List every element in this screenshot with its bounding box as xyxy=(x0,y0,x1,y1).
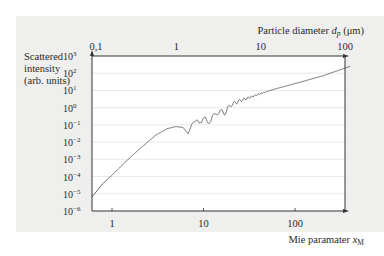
plot-area xyxy=(92,56,345,211)
x-tick-label: 1 xyxy=(109,218,114,229)
top-x-axis-label: Particle diameter dp (μm) xyxy=(258,25,365,38)
x-tick-label: 100 xyxy=(287,218,303,229)
y-tick-label: 10−1 xyxy=(63,119,81,131)
y-tick-label: 10−6 xyxy=(63,205,81,217)
top-x-axis-arrow-icon xyxy=(343,54,349,58)
y-axis-label-line: Scattered xyxy=(24,51,64,62)
x-axis-arrow-icon xyxy=(343,209,349,213)
top-x-tick-label: 1 xyxy=(174,41,179,52)
y-tick-label: 10−3 xyxy=(63,153,81,165)
y-tick-label: 103 xyxy=(63,50,77,62)
y-axis-label-line: intensity xyxy=(24,63,61,74)
x-tick-label: 10 xyxy=(198,218,209,229)
y-tick-label: 101 xyxy=(63,84,77,96)
y-tick-label: 10−4 xyxy=(63,171,81,183)
y-tick-label: 10−5 xyxy=(63,188,81,200)
top-x-tick-label: 0,1 xyxy=(89,41,102,52)
mie-scattering-chart: 10310210110010−110−210−310−410−510−6 110… xyxy=(0,0,384,256)
y-tick-label: 100 xyxy=(63,102,77,114)
y-tick-label: 10−2 xyxy=(63,136,81,148)
top-x-tick-labels: 0,1110100 xyxy=(89,41,352,52)
top-x-tick-label: 10 xyxy=(255,41,266,52)
top-x-tick-label: 100 xyxy=(337,41,353,52)
x-axis-label: Mie paramater xM xyxy=(289,234,365,247)
y-axis-label-line: (arb. units) xyxy=(24,75,71,87)
